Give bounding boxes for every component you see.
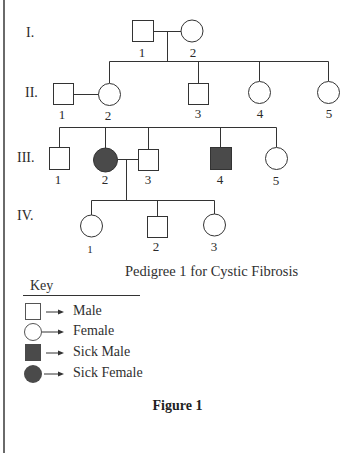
generation-label-III: III. xyxy=(17,150,35,165)
individual-IV-1 xyxy=(81,215,103,237)
figure-label: Figure 1 xyxy=(0,398,355,414)
number-III-3: 3 xyxy=(145,172,152,187)
individual-III-4-affected xyxy=(211,148,232,170)
number-II-4: 4 xyxy=(257,106,264,121)
individual-III-2-affected xyxy=(94,148,118,172)
generation-label-IV: IV. xyxy=(17,208,33,223)
individual-II-5 xyxy=(318,82,340,104)
number-IV-1: 1 xyxy=(87,243,93,255)
number-IV-2: 2 xyxy=(153,239,160,254)
number-III-1: 1 xyxy=(55,172,62,187)
number-I-2: 2 xyxy=(190,45,197,60)
generation-label-I: I. xyxy=(26,25,34,40)
legend-item-sick-female: Sick Female xyxy=(23,364,163,384)
generation-label-II: II. xyxy=(25,85,38,100)
number-III-5: 5 xyxy=(273,173,280,188)
key-title: Key xyxy=(30,278,53,294)
individual-II-1 xyxy=(54,84,74,105)
arrow-right-icon xyxy=(46,351,64,356)
individual-II-3 xyxy=(189,84,209,105)
legend-label: Male xyxy=(73,303,102,319)
male-symbol-icon xyxy=(26,304,41,320)
number-III-2: 2 xyxy=(102,172,109,187)
legend-item-male: Male xyxy=(23,302,163,322)
legend-item-sick-male: Sick Male xyxy=(23,343,163,363)
key-divider xyxy=(23,295,140,296)
legend-label: Female xyxy=(73,323,114,339)
number-I-1: 1 xyxy=(139,45,146,60)
legend-item-female: Female xyxy=(23,322,163,342)
figure-frame: I. II. III. IV. 1 2 1 2 3 4 5 1 2 3 4 5 … xyxy=(0,0,355,453)
sick-male-symbol-icon xyxy=(25,344,41,361)
individual-II-4 xyxy=(249,82,271,104)
individual-III-1 xyxy=(50,148,70,170)
arrow-right-icon xyxy=(44,372,64,377)
number-II-2: 2 xyxy=(105,108,112,123)
individual-I-1 xyxy=(133,21,154,42)
sick-female-symbol-icon xyxy=(24,365,42,383)
legend-label: Sick Male xyxy=(73,344,130,360)
number-III-4: 4 xyxy=(217,172,224,187)
pedigree-chart: I. II. III. IV. 1 2 1 2 3 4 5 1 2 3 4 5 … xyxy=(0,0,355,260)
individual-III-3 xyxy=(139,150,159,171)
individual-II-2 xyxy=(99,84,121,106)
legend-label: Sick Female xyxy=(73,365,143,381)
number-IV-3: 3 xyxy=(211,239,218,254)
individual-IV-3 xyxy=(204,214,226,236)
individual-I-2 xyxy=(181,20,203,42)
female-symbol-icon xyxy=(25,324,42,341)
number-II-1: 1 xyxy=(59,107,66,122)
arrow-right-icon xyxy=(42,330,64,335)
arrow-right-icon xyxy=(46,310,64,315)
individual-III-5 xyxy=(266,148,288,170)
number-II-3: 3 xyxy=(195,106,202,121)
individual-IV-2 xyxy=(148,217,168,238)
number-II-5: 5 xyxy=(326,106,333,121)
